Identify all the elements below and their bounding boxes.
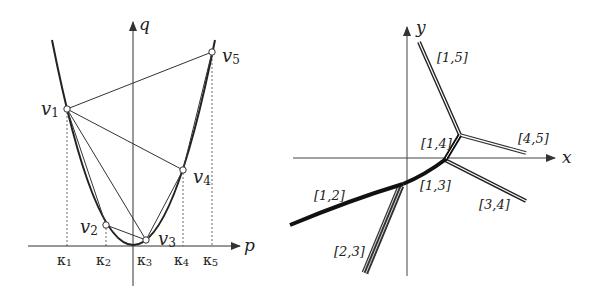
label-edge-4-5: [4,5] [518,131,550,146]
label-v2: v2 [80,216,98,238]
edge-2-3 [363,186,405,273]
x-axis-label: x [562,147,572,167]
label-edge-1-3: [1,3] [420,178,452,193]
y-axis-label: y [415,17,426,37]
tick-kappa-2: κ2 [96,252,111,268]
label-edge-1-2: [1,2] [314,188,346,203]
tick-kappa-3: κ3 [137,252,152,268]
label-edge-1-4: [1,4] [421,136,453,151]
tick-kappa-5: κ5 [203,252,218,268]
edge-3-4 [445,160,526,201]
label-edge-3-4: [3,4] [479,197,511,212]
label-v1: v1 [41,98,59,120]
label-v4: v4 [193,166,211,188]
point-v4 [180,167,186,173]
left-diagram: p q v1 v2 v3 v4 v5 κ1 κ2 [28,14,255,286]
vertex-points [64,49,215,243]
figure-canvas: p q v1 v2 v3 v4 v5 κ1 κ2 [0,0,603,295]
point-v1 [64,106,70,112]
point-v2 [103,222,109,228]
label-v3: v3 [158,228,176,250]
label-edge-2-3: [2,3] [334,244,366,259]
p-axis-label: p [244,235,255,255]
point-v5 [209,49,215,55]
tick-kappa-4: κ4 [174,252,189,268]
point-v3 [143,237,149,243]
q-axis-label: q [139,14,150,34]
label-edge-1-5: [1,5] [437,50,469,65]
tick-kappa-1: κ1 [57,252,72,268]
right-diagram: x y [290,17,572,276]
edge-4-5 [460,135,526,153]
label-v5: v5 [222,45,240,67]
